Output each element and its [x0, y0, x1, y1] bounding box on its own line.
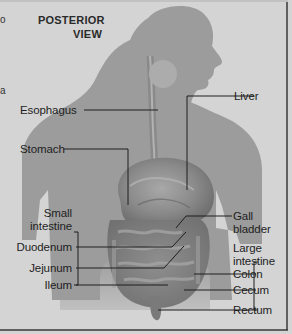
label-esophagus: Esophagus: [20, 104, 77, 117]
clipped-text-fragment: o: [0, 15, 6, 25]
label-ileum: Ileum: [10, 279, 72, 292]
label-jejunum: Jejunum: [10, 262, 72, 275]
diagram-frame: o a POSTERIOR VIEW Esophagus Stomach Sma…: [0, 0, 292, 334]
label-gall-bladder-line2: bladder: [233, 223, 271, 236]
label-cecum: Cecum: [233, 284, 269, 297]
label-colon: Colon: [233, 268, 263, 281]
label-duodenum: Duodenum: [10, 241, 72, 254]
label-small-intestine: Small intestine: [20, 207, 72, 233]
label-stomach: Stomach: [20, 143, 65, 156]
label-gall-bladder-line1: Gall: [233, 210, 271, 223]
label-rectum: Rectum: [233, 304, 272, 317]
label-small-intestine-line1: Small: [20, 207, 72, 220]
label-gall-bladder: Gall bladder: [233, 210, 271, 236]
view-title: POSTERIOR VIEW: [38, 13, 102, 41]
label-large-intestine-line2: intestine: [233, 255, 275, 268]
label-small-intestine-line2: intestine: [20, 220, 72, 233]
label-large-intestine: Large intestine: [233, 242, 275, 268]
clipped-text-fragment: a: [0, 86, 6, 96]
label-large-intestine-line1: Large: [233, 242, 275, 255]
view-title-line1: POSTERIOR: [38, 13, 102, 27]
view-title-line2: VIEW: [38, 27, 102, 41]
label-liver: Liver: [234, 90, 258, 103]
